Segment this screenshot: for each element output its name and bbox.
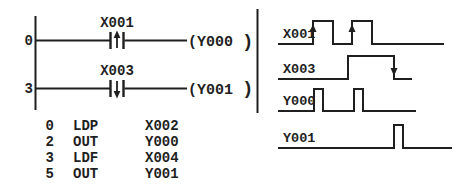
instruction-operand: Y001 — [145, 166, 179, 182]
waveform-x001: X001 — [278, 21, 444, 44]
instruction-mnemonic: LDP — [73, 118, 98, 134]
instruction-row: 2 OUT Y000 — [0, 134, 240, 150]
ladder-rung-0: 0 X001 (Y000 ) — [25, 15, 254, 53]
falling-edge-contact-x003 — [111, 80, 124, 99]
ladder-rung-3: 3 X003 (Y001 ) — [25, 63, 254, 100]
coil-close-paren: ) — [242, 78, 253, 100]
instruction-list: 0 LDP X002 2 OUT Y000 3 LDF X004 5 OUT Y… — [0, 118, 240, 188]
coil-label-y001: (Y001 — [188, 82, 233, 99]
rising-edge-arrow-icon — [349, 24, 356, 42]
timing-signal-label: Y001 — [283, 131, 315, 146]
timing-signal-label: X003 — [283, 62, 315, 77]
instruction-step: 2 — [30, 134, 54, 150]
coil-close-paren: ) — [242, 31, 253, 53]
waveform-y000: Y000 — [278, 89, 416, 111]
instruction-mnemonic: LDF — [73, 150, 98, 166]
instruction-operand: X004 — [145, 150, 179, 166]
rung-step-number: 0 — [25, 33, 33, 49]
plc-ladder-and-timing-figure: 0 X001 (Y000 ) 3 X003 — [0, 0, 474, 192]
falling-edge-arrow-icon — [391, 58, 398, 76]
coil-label-y000: (Y000 — [188, 34, 233, 51]
falling-edge-arrow-icon — [114, 81, 121, 99]
contact-label-x003: X003 — [100, 63, 134, 79]
rising-edge-contact-x001 — [111, 31, 124, 50]
instruction-step: 3 — [30, 150, 54, 166]
instruction-row: 0 LDP X002 — [0, 118, 240, 134]
instruction-operand: X002 — [145, 118, 179, 134]
timing-diagram: X001X003Y000Y001 — [278, 21, 452, 148]
waveform-y001: Y001 — [278, 125, 452, 148]
timing-signal-label: X001 — [283, 27, 315, 42]
instruction-step: 0 — [30, 118, 54, 134]
instruction-mnemonic: OUT — [73, 166, 98, 182]
instruction-row: 3 LDF X004 — [0, 150, 240, 166]
timing-signal-label: Y000 — [283, 94, 315, 109]
waveform-x003: X003 — [278, 56, 412, 79]
ladder-diagram: 0 X001 (Y000 ) 3 X003 — [25, 9, 258, 113]
rung-step-number: 3 — [25, 81, 33, 97]
instruction-step: 5 — [30, 166, 54, 182]
contact-label-x001: X001 — [100, 15, 134, 31]
instruction-mnemonic: OUT — [73, 134, 98, 150]
instruction-row: 5 OUT Y001 — [0, 166, 240, 182]
instruction-operand: Y000 — [145, 134, 179, 150]
rising-edge-arrow-icon — [114, 31, 121, 49]
